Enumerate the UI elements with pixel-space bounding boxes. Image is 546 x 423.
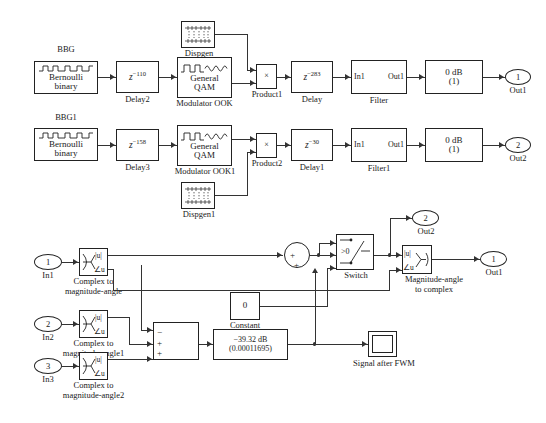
complex-to-mag-angle-icon: |u| ∠u: [80, 249, 107, 275]
sum-circle-plus-left: +: [290, 251, 295, 260]
gain-block-2[interactable]: 0 dB (1): [425, 128, 483, 162]
constellation-scatter-icon: [184, 24, 212, 45]
wire-m2c-to-out1: [432, 259, 480, 260]
c2ma-label-line2: magnitude-angle: [47, 287, 140, 296]
output-port-out2-upper[interactable]: 2: [505, 137, 531, 153]
complex-to-magnitude-angle-block-3[interactable]: |u| ∠u: [79, 352, 108, 380]
arrow-product2-in-bottom: [250, 149, 255, 155]
arrow-m2c-mag-in: [396, 252, 401, 258]
svg-text:|u|: |u|: [95, 355, 102, 364]
gain2-line2: (1): [449, 145, 460, 154]
sum-block-lower[interactable]: − + +: [153, 322, 199, 360]
out2-label-lower: Out2: [410, 227, 442, 236]
arrow-c2ma1-in: [73, 321, 78, 327]
c2ma-label-line1: Complex to: [60, 277, 127, 286]
wire-dispgen1-up: [247, 152, 248, 195]
in1-port-number: 1: [46, 257, 50, 267]
out2-lower-port-number: 2: [423, 213, 427, 223]
wire-switch-top-branch-up: [319, 243, 320, 255]
svg-text:∠u: ∠u: [94, 369, 105, 378]
out1-port-number: 1: [516, 72, 520, 82]
input-port-in2[interactable]: 2: [34, 316, 62, 332]
complex-to-magnitude-angle-block-1[interactable]: |u| ∠u: [79, 248, 108, 276]
delay2-block[interactable]: z−110: [116, 61, 159, 93]
delay1-block[interactable]: z−30: [291, 129, 333, 161]
arrow-out2-lower-in: [406, 215, 411, 221]
wire-dispgen-right: [215, 34, 248, 35]
product2-block[interactable]: ×: [256, 133, 277, 158]
arrow-lower-gain-in: [207, 341, 212, 347]
arrow-sum-in-bottom: [312, 268, 318, 273]
wire-c2ma-angle-right: [113, 290, 390, 291]
input-port-in1[interactable]: 1: [34, 254, 62, 270]
filter-block[interactable]: In1 Out1: [351, 60, 407, 94]
constant-block[interactable]: 0: [230, 292, 260, 320]
delay2-expression: z−110: [129, 71, 146, 83]
product2-symbol: ×: [264, 141, 269, 149]
arrow-sum2-in-1: [147, 327, 152, 333]
arrow-scope-in: [362, 341, 367, 347]
svg-text:∠u: ∠u: [94, 327, 105, 336]
out1-lower-port-number: 1: [491, 254, 495, 264]
general-qam-block-2[interactable]: General QAM: [177, 125, 232, 166]
delay-expression: z−283: [303, 71, 320, 83]
complex-to-mag-angle-icon: |u| ∠u: [80, 353, 107, 379]
constant-value: 0: [243, 301, 248, 310]
square-sine-wave-icon: [181, 63, 229, 74]
constant-label: Constant: [216, 321, 274, 330]
sum-sign-plus-2: +: [157, 349, 162, 358]
delay1-expression: z−30: [305, 139, 319, 151]
modulator-ook-label: Modulator OOK: [168, 99, 241, 108]
sum-sign-plus-1: +: [157, 339, 162, 348]
fwm-gain-line2: (0.00011695): [229, 345, 272, 353]
out2-label-upper: Out2: [503, 154, 533, 163]
arrow-qam1-in: [171, 142, 176, 148]
arrow-out1-in: [499, 74, 504, 80]
scope-block[interactable]: [368, 331, 397, 357]
wire-c2ma1-mag-right: [108, 317, 130, 318]
svg-text:|u|: |u|: [95, 251, 102, 260]
complex-to-magnitude-angle-block-2[interactable]: |u| ∠u: [79, 310, 108, 338]
constellation-scatter-icon: [184, 185, 212, 206]
magnitude-angle-to-complex-block[interactable]: |u| ∠u: [402, 245, 432, 274]
gain1-line2: (1): [449, 77, 460, 86]
bernoulli-binary-block-1[interactable]: Bernoulli binary: [34, 61, 98, 94]
delay-block[interactable]: z−283: [291, 61, 333, 93]
bbg1-label: BBG1: [36, 113, 96, 122]
filter1-block[interactable]: In1 Out1: [351, 128, 407, 162]
square-sine-wave-icon: [181, 131, 229, 142]
delay3-label: Delay3: [116, 163, 159, 172]
scope-screen-icon: [372, 335, 393, 353]
delay3-block[interactable]: z−158: [116, 129, 159, 161]
output-port-out1-lower[interactable]: 1: [480, 251, 507, 267]
arrow-c2ma2-in: [73, 363, 78, 369]
out1-label-lower: Out1: [478, 268, 510, 277]
general-qam-block-1[interactable]: General QAM: [177, 57, 232, 98]
out1-label: Out1: [503, 86, 533, 95]
product1-block[interactable]: ×: [256, 64, 277, 89]
output-port-out1[interactable]: 1: [505, 69, 531, 85]
output-port-out2-lower[interactable]: 2: [412, 210, 439, 226]
svg-text:|u|: |u|: [95, 313, 102, 322]
product1-symbol: ×: [264, 72, 269, 80]
arrow-product2-in-top: [250, 136, 255, 142]
dispgen1-block[interactable]: [181, 182, 215, 209]
arrow-switch-in-middle: [330, 252, 335, 258]
dispgen-label: Dispgen: [170, 49, 228, 58]
bernoulli-binary-block-2[interactable]: Bernoulli binary: [34, 128, 98, 161]
bbg-label: BBG: [36, 45, 96, 54]
mag-angle-to-complex-icon: |u| ∠u: [403, 246, 431, 273]
bernoulli2-label-line2: binary: [55, 149, 78, 158]
arrow-delay1-in: [285, 142, 290, 148]
gain-block-1[interactable]: 0 dB (1): [425, 60, 483, 94]
fwm-gain-block[interactable]: −39.32 dB (0.00011695): [213, 329, 288, 360]
filter1-in-port-label: In1: [354, 141, 365, 149]
filter-in-port-label: In1: [354, 73, 365, 81]
wire-c2ma1-mag-down: [129, 317, 130, 345]
arrow-filter1-in: [345, 142, 350, 148]
switch-block[interactable]: >0: [336, 234, 374, 270]
arrow-out1-lower-in: [474, 256, 479, 262]
dispgen-block[interactable]: [181, 21, 215, 48]
wire-dispgen-down: [247, 34, 248, 71]
input-port-in3[interactable]: 3: [34, 358, 62, 374]
